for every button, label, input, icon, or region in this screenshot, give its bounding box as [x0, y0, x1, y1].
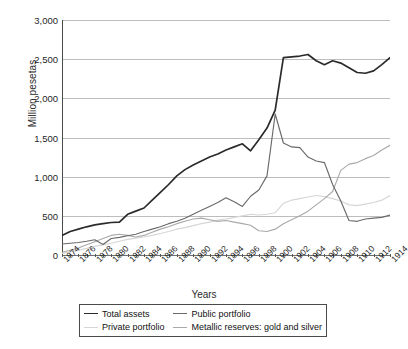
chart-legend: Total assetsPublic portfolioPrivate port… — [79, 304, 327, 337]
x-axis-title: Years — [0, 289, 408, 300]
y-tick-label: 2,500 — [14, 54, 58, 65]
y-tick-label: 500 — [14, 210, 58, 221]
chart-figure: Million pesetas 05001,0001,5002,0002,500… — [0, 0, 408, 349]
series-line — [62, 145, 390, 252]
legend-label: Public portfolio — [191, 309, 250, 319]
legend-label: Metallic reserves: gold and silver — [191, 322, 322, 332]
legend-item[interactable]: Metallic reserves: gold and silver — [173, 321, 322, 335]
legend-label: Private portfolio — [102, 322, 165, 332]
x-tick-label: 1914 — [389, 243, 408, 264]
legend-item[interactable]: Public portfolio — [173, 307, 322, 321]
plot-area — [62, 20, 390, 255]
legend-label: Total assets — [102, 309, 150, 319]
series-line — [62, 114, 390, 244]
y-tick-label: 1,500 — [14, 132, 58, 143]
series-lines — [62, 20, 390, 255]
y-tick-label: 2,000 — [14, 93, 58, 104]
y-tick-label: 3,000 — [14, 15, 58, 26]
legend-swatch-icon — [173, 313, 187, 314]
y-axis-tick-labels: 05001,0001,5002,0002,5003,000 — [10, 20, 58, 255]
x-axis-tick-labels: 1874187618781880188218841886188818901892… — [62, 257, 390, 291]
y-tick-label: 0 — [14, 250, 58, 261]
legend-swatch-icon — [173, 327, 187, 328]
legend-swatch-icon — [84, 327, 98, 328]
legend-item[interactable]: Private portfolio — [84, 321, 173, 335]
legend-item[interactable]: Total assets — [84, 307, 173, 321]
legend-swatch-icon — [84, 313, 98, 314]
series-line — [62, 195, 390, 253]
series-line — [62, 54, 390, 235]
y-tick-label: 1,000 — [14, 171, 58, 182]
